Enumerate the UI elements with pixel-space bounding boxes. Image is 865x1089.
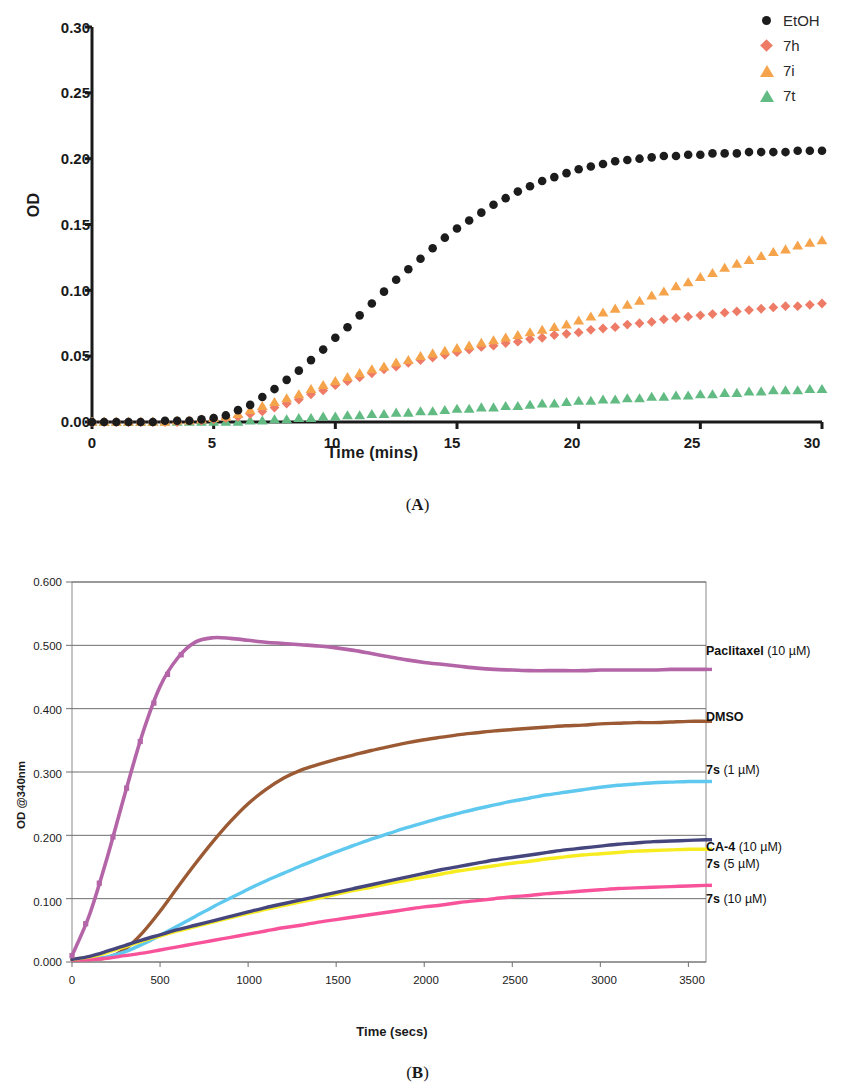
chart-a-ytick-6: 0.30 [32, 19, 90, 36]
panel-b-caption: (B) [0, 1063, 865, 1083]
chart-b-label-7s-10um: 7s (10 µM) [706, 893, 767, 907]
legend-label-7i: 7i [783, 62, 795, 79]
chart-b-ytick-5: 0.500 [10, 640, 62, 652]
chart-b-ytick-0: 0.000 [10, 956, 62, 968]
chart-a-ytick-3: 0.15 [32, 216, 90, 233]
chart-b-xtick-5: 2500 [493, 974, 537, 986]
chart-b-y-axis-label: OD @340nm [15, 761, 27, 829]
chart-b-ytick-2: 0.200 [10, 832, 62, 844]
legend-marker-diamond-icon [760, 39, 774, 53]
chart-b-xtick-0: 0 [50, 974, 94, 986]
figure-container: 0.30 0.25 0.20 0.15 0.10 0.05 0.00 0 5 1… [0, 0, 865, 1089]
panel-b-caption-letter: B [412, 1063, 423, 1082]
chart-b-label-paclitaxel-conc: (10 µM) [764, 644, 811, 658]
panel-b-chart: 0.600 0.500 0.400 0.300 0.200 0.100 0.00… [0, 545, 865, 1060]
chart-b-xtick-4: 2000 [404, 974, 448, 986]
chart-b-label-ca4-name: CA-4 [706, 840, 735, 854]
chart-b-label-7s-5um: 7s (5 µM) [706, 858, 760, 872]
chart-b-label-7s-5um-name: 7s [706, 857, 720, 871]
chart-a-x-axis-label: Time (mins) [0, 444, 865, 462]
chart-b-xtick-3: 1500 [316, 974, 360, 986]
chart-a-ytick-2: 0.10 [32, 282, 90, 299]
chart-a-ytick-4: 0.20 [32, 150, 90, 167]
chart-b-label-paclitaxel-name: Paclitaxel [706, 644, 764, 658]
chart-b-x-axis-label: Time (secs) [72, 1024, 712, 1039]
legend-item-etoh[interactable]: EtOH [760, 8, 865, 33]
legend-item-7t[interactable]: 7t [760, 83, 865, 108]
chart-b-label-ca4-conc: (10 µM) [735, 840, 782, 854]
legend-marker-triangle-green-icon [760, 89, 774, 103]
chart-b-label-dmso-name: DMSO [706, 710, 744, 724]
chart-a-ytick-1: 0.05 [32, 347, 90, 364]
chart-b-label-paclitaxel: Paclitaxel (10 µM) [706, 645, 810, 659]
chart-a-ytick-5: 0.25 [32, 84, 90, 101]
legend-item-7i[interactable]: 7i [760, 58, 865, 83]
legend-marker-circle-icon [760, 14, 774, 28]
chart-b-label-dmso: DMSO [706, 711, 744, 725]
chart-b-ytick-6: 0.600 [10, 576, 62, 588]
legend-label-etoh: EtOH [783, 12, 820, 29]
chart-b-xtick-6: 3000 [582, 974, 626, 986]
chart-b-label-7s-1um-name: 7s [706, 763, 720, 777]
chart-b-xtick-2: 1000 [227, 974, 271, 986]
chart-b-ytick-1: 0.100 [10, 896, 62, 908]
chart-b-label-7s-1um-conc: (1 µM) [720, 763, 760, 777]
legend-marker-triangle-orange-icon [760, 64, 774, 78]
chart-a-y-axis-label: OD [25, 193, 43, 217]
chart-b-label-7s-10um-name: 7s [706, 892, 720, 906]
chart-b-xtick-1: 500 [138, 974, 182, 986]
chart-a-ytick-0: 0.00 [32, 413, 90, 430]
chart-b-label-7s-10um-conc: (10 µM) [720, 892, 767, 906]
legend-item-7h[interactable]: 7h [760, 33, 865, 58]
chart-a-legend: EtOH 7h 7i 7t [760, 8, 865, 108]
panel-a-chart: 0.30 0.25 0.20 0.15 0.10 0.05 0.00 0 5 1… [0, 0, 865, 545]
legend-label-7t: 7t [783, 87, 796, 104]
panel-a-caption: (A) [0, 495, 865, 515]
chart-b-label-7s-1um: 7s (1 µM) [706, 764, 760, 778]
panel-a-caption-letter: A [411, 495, 423, 514]
chart-b-ytick-4: 0.400 [10, 704, 62, 716]
chart-b-label-7s-5um-conc: (5 µM) [720, 857, 760, 871]
chart-b-xtick-7: 3500 [670, 974, 714, 986]
chart-a-plot [0, 0, 865, 545]
chart-b-label-ca4: CA-4 (10 µM) [706, 841, 782, 855]
legend-label-7h: 7h [783, 37, 800, 54]
